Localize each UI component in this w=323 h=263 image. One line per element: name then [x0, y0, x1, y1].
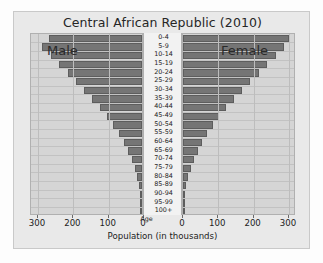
age-label-25-29: 25-29	[144, 76, 183, 85]
bar-female-0-4	[183, 35, 289, 42]
gridline-female-100	[218, 34, 219, 215]
bar-male-50-54	[113, 121, 142, 128]
bar-male-80-84	[137, 173, 142, 180]
chart-title: Central African Republic (2010)	[14, 15, 311, 30]
tick-label-female-100: 100	[209, 218, 225, 228]
grid-rowline	[31, 155, 142, 156]
bar-female-80-84	[183, 173, 188, 180]
tick-label-female-200: 200	[244, 218, 260, 228]
bar-female-35-39	[183, 95, 234, 102]
age-label-75-79: 75-79	[144, 163, 183, 172]
gridline-male-100	[109, 34, 110, 215]
male-caption: Male	[47, 43, 78, 58]
age-label-30-34: 30-34	[144, 85, 183, 94]
grid-rowline	[183, 155, 294, 156]
bar-female-50-54	[183, 121, 213, 128]
age-label-5-9: 5-9	[144, 42, 183, 51]
tick-label-female-300: 300	[280, 218, 296, 228]
female-caption: Female	[221, 43, 268, 58]
bar-male-100+	[140, 208, 142, 215]
chart-card: Central African Republic (2010) 0-45-910…	[13, 11, 310, 249]
x-axis-title: Population (in thousands)	[14, 231, 311, 241]
grid-rowline	[183, 172, 294, 173]
bar-male-95-99	[140, 199, 142, 206]
bar-male-40-44	[100, 104, 142, 111]
bar-female-70-74	[183, 156, 194, 163]
population-pyramid-figure: Central African Republic (2010) 0-45-910…	[0, 0, 323, 263]
bar-female-90-94	[183, 191, 185, 198]
age-label-85-89: 85-89	[144, 180, 183, 189]
bar-male-85-89	[139, 182, 142, 189]
bar-male-20-24	[68, 69, 142, 76]
bar-male-90-94	[140, 191, 142, 198]
grid-rowline	[31, 146, 142, 147]
bar-male-15-19	[59, 61, 142, 68]
bar-female-30-34	[183, 87, 242, 94]
female-panel	[182, 33, 295, 215]
tick-label-male-200: 200	[64, 218, 80, 228]
bar-male-0-4	[49, 35, 142, 42]
bar-male-75-79	[135, 165, 142, 172]
bar-female-85-89	[183, 182, 186, 189]
bar-female-65-69	[183, 147, 198, 154]
grid-rowline	[31, 181, 142, 182]
grid-rowline	[183, 198, 294, 199]
age-label-40-44: 40-44	[144, 102, 183, 111]
bar-female-45-49	[183, 113, 219, 120]
bar-female-40-44	[183, 104, 226, 111]
age-label-45-49: 45-49	[144, 111, 183, 120]
grid-rowline	[31, 207, 142, 208]
grid-rowline	[31, 198, 142, 199]
age-label-20-24: 20-24	[144, 68, 183, 77]
bar-male-55-59	[119, 130, 142, 137]
tick-label-male-100: 100	[99, 218, 115, 228]
age-label-0-4: 0-4	[144, 33, 183, 42]
age-label-70-74: 70-74	[144, 154, 183, 163]
age-label-80-84: 80-84	[144, 172, 183, 181]
age-label-column: 0-45-910-1415-1920-2425-2930-3435-3940-4…	[143, 33, 182, 215]
bar-female-75-79	[183, 165, 191, 172]
grid-rowline	[31, 172, 142, 173]
gridline-female-300	[289, 34, 290, 215]
age-label-100+: 100+	[144, 206, 183, 215]
bar-female-95-99	[183, 199, 185, 206]
bar-female-55-59	[183, 130, 207, 137]
bar-male-45-49	[107, 113, 142, 120]
grid-rowline	[183, 190, 294, 191]
age-label-55-59: 55-59	[144, 128, 183, 137]
bar-female-25-29	[183, 78, 250, 85]
gridline-female-200	[254, 34, 255, 215]
grid-rowline	[31, 164, 142, 165]
grid-rowline	[183, 181, 294, 182]
tick-label-female-0: 0	[179, 218, 184, 228]
bar-male-70-74	[132, 156, 142, 163]
male-panel	[30, 33, 143, 215]
bar-male-30-34	[84, 87, 142, 94]
bar-female-60-64	[183, 139, 202, 146]
tick-label-male-300: 300	[29, 218, 45, 228]
age-label-35-39: 35-39	[144, 94, 183, 103]
bar-male-35-39	[92, 95, 142, 102]
grid-rowline	[183, 207, 294, 208]
age-axis-label: Age	[127, 215, 166, 223]
grid-rowline	[183, 164, 294, 165]
age-label-50-54: 50-54	[144, 120, 183, 129]
age-label-65-69: 65-69	[144, 146, 183, 155]
age-label-95-99: 95-99	[144, 198, 183, 207]
bar-female-100+	[183, 208, 185, 215]
bar-male-60-64	[124, 139, 142, 146]
age-label-60-64: 60-64	[144, 137, 183, 146]
age-label-10-14: 10-14	[144, 50, 183, 59]
gridline-male-200	[73, 34, 74, 215]
plot-area: 0-45-910-1415-1920-2425-2930-3435-3940-4…	[30, 33, 295, 215]
gridline-male-300	[38, 34, 39, 215]
grid-rowline	[183, 146, 294, 147]
age-label-15-19: 15-19	[144, 59, 183, 68]
bar-female-20-24	[183, 69, 259, 76]
grid-rowline	[31, 190, 142, 191]
bar-male-65-69	[128, 147, 142, 154]
age-label-90-94: 90-94	[144, 189, 183, 198]
